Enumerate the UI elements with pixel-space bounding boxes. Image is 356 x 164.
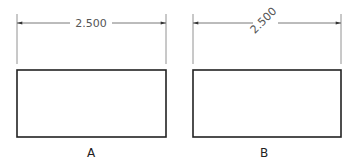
- figure-label: A: [87, 146, 96, 160]
- dimension-text: 2.500: [75, 17, 107, 30]
- figure-label: B: [260, 146, 268, 160]
- dimension-text-angled: 2.500: [248, 5, 279, 36]
- rectangle: [193, 70, 341, 137]
- dimensioning-diagram: 2.500 A 2.500 B: [0, 0, 356, 164]
- figure-a: 2.500 A: [17, 14, 166, 160]
- rectangle: [17, 70, 166, 137]
- figure-b: 2.500 B: [193, 5, 341, 160]
